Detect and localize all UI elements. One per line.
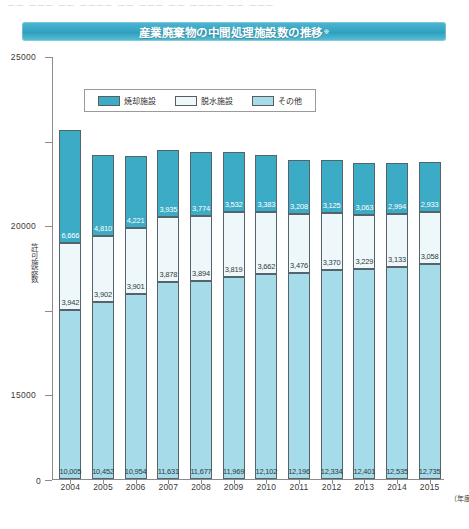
bar-segment-other: 12,102 xyxy=(255,274,277,479)
bar-segment-dehydration: 3,819 xyxy=(223,212,245,277)
page-title: 産業廃棄物の中間処理施設数の推移 xyxy=(139,24,323,40)
bar-segment-other: 10,954 xyxy=(125,294,147,479)
legend-swatch-other xyxy=(252,96,274,106)
x-axis-tick-label: 2005 xyxy=(93,482,113,492)
bar-value-label: 3,819 xyxy=(225,265,243,276)
bar-value-label: 2,994 xyxy=(388,202,406,213)
legend-label-dehydration: 脱水施設 xyxy=(201,95,233,106)
bar-segment-dehydration: 3,370 xyxy=(321,213,343,270)
x-axis-tick-label: 2007 xyxy=(158,482,178,492)
bar-column: 11,6313,8783,935 xyxy=(157,150,179,479)
bar-value-label: 4,810 xyxy=(94,224,112,235)
bar-segment-incineration: 2,994 xyxy=(386,163,408,214)
bar-value-label: 10,954 xyxy=(125,467,147,478)
bar-value-label: 3,935 xyxy=(159,205,177,216)
bar-segment-incineration: 3,063 xyxy=(353,163,375,215)
bar-column: 12,7353,0582,933 xyxy=(419,162,441,479)
bar-value-label: 3,058 xyxy=(421,252,439,263)
legend-swatch-incineration xyxy=(98,96,120,106)
bar-value-label: 3,125 xyxy=(323,201,341,212)
legend-item-other: その他 xyxy=(252,95,302,106)
bar-value-label: 3,942 xyxy=(61,298,79,309)
x-axis-tick-label: 2013 xyxy=(354,482,374,492)
bar-value-label: 3,901 xyxy=(127,282,145,293)
bar-segment-other: 11,677 xyxy=(190,281,212,479)
bar-segment-dehydration: 3,902 xyxy=(92,236,114,302)
bar-value-label: 3,370 xyxy=(323,258,341,269)
bar-segment-other: 12,401 xyxy=(353,269,375,479)
bar-value-label: 6,666 xyxy=(61,231,79,242)
bar-segment-dehydration: 3,058 xyxy=(419,212,441,264)
x-axis-tick-label: 2010 xyxy=(256,482,276,492)
bar-segment-incineration: 3,208 xyxy=(288,160,310,214)
bar-segment-dehydration: 3,894 xyxy=(190,216,212,282)
bar-value-label: 3,476 xyxy=(290,261,308,272)
bar-column: 10,0053,9426,666 xyxy=(59,130,81,479)
bar-value-label: 12,334 xyxy=(321,467,343,478)
x-axis-tick-label: 2012 xyxy=(322,482,342,492)
bar-segment-other: 10,452 xyxy=(92,302,114,479)
bar-segment-incineration: 2,933 xyxy=(419,162,441,212)
bar-value-label: 3,133 xyxy=(388,255,406,266)
x-axis-unit-label: （年度） xyxy=(450,493,469,503)
y-axis-tick: 25000 xyxy=(45,57,52,58)
x-axis-tick-label: 2014 xyxy=(387,482,407,492)
bar-value-label: 3,894 xyxy=(192,269,210,280)
bar-segment-other: 12,735 xyxy=(419,264,441,479)
bar-column: 12,3343,3703,125 xyxy=(321,160,343,479)
bar-segment-incineration: 3,532 xyxy=(223,152,245,212)
bar-segment-dehydration: 3,662 xyxy=(255,212,277,274)
bar-value-label: 11,631 xyxy=(158,467,179,478)
bar-value-label: 12,401 xyxy=(353,467,375,478)
bar-segment-dehydration: 3,476 xyxy=(288,214,310,273)
y-axis-tick: 15000 xyxy=(45,226,52,227)
y-axis-tick: 20000 xyxy=(45,142,52,143)
x-axis-tick-label: 2008 xyxy=(191,482,211,492)
bar-value-label: 3,229 xyxy=(355,257,373,268)
bar-segment-other: 11,631 xyxy=(157,282,179,479)
bar-value-label: 12,735 xyxy=(419,467,441,478)
bar-column: 12,4013,2293,063 xyxy=(353,163,375,479)
bar-segment-incineration: 3,125 xyxy=(321,160,343,213)
x-axis-tick-label: 2011 xyxy=(289,482,308,492)
bar-segment-other: 12,334 xyxy=(321,270,343,479)
legend-item-dehydration: 脱水施設 xyxy=(175,95,233,106)
bar-segment-other: 12,535 xyxy=(386,267,408,479)
bar-segment-dehydration: 3,942 xyxy=(59,243,81,310)
bar-segment-other: 11,969 xyxy=(223,277,245,480)
bar-segment-dehydration: 3,229 xyxy=(353,215,375,270)
y-axis-title: 許可施設数 xyxy=(26,243,38,283)
title-footnote-marker: ※ xyxy=(324,28,330,36)
x-axis-tick-label: 2004 xyxy=(60,482,80,492)
x-axis-tick-label: 2015 xyxy=(420,482,440,492)
bar-value-label: 2,933 xyxy=(421,200,439,211)
chart-plot-area: 0500010000150002000025000 10,0053,9426,6… xyxy=(52,57,444,480)
bar-value-label: 12,102 xyxy=(255,467,277,478)
legend-label-incineration: 焼却施設 xyxy=(124,95,156,106)
bar-segment-incineration: 3,383 xyxy=(255,155,277,212)
bar-value-label: 3,208 xyxy=(290,202,308,213)
y-axis-tick-label: 25000 xyxy=(11,52,36,62)
y-axis-tick-label: 15000 xyxy=(11,390,36,400)
bar-column: 11,9693,8193,532 xyxy=(223,152,245,479)
bar-value-label: 12,196 xyxy=(288,467,310,478)
bar-value-label: 3,662 xyxy=(257,262,275,273)
bar-value-label: 3,878 xyxy=(159,270,177,281)
bar-value-label: 11,677 xyxy=(190,467,211,478)
legend-swatch-dehydration xyxy=(175,96,197,106)
bar-value-label: 10,005 xyxy=(59,467,81,478)
bar-value-label: 3,383 xyxy=(257,200,275,211)
bar-value-label: 11,969 xyxy=(223,467,244,478)
legend-item-incineration: 焼却施設 xyxy=(98,95,156,106)
bar-value-label: 3,063 xyxy=(355,203,373,214)
bar-column: 10,9543,9014,221 xyxy=(125,156,147,479)
bar-column: 12,1963,4763,208 xyxy=(288,160,310,479)
bar-value-label: 3,902 xyxy=(94,290,112,301)
bar-segment-incineration: 4,221 xyxy=(125,156,147,227)
bar-segment-incineration: 6,666 xyxy=(59,130,81,243)
y-axis-tick: 0 xyxy=(45,480,52,481)
bar-column: 12,1023,6623,383 xyxy=(255,155,277,479)
bar-column: 11,6773,8943,774 xyxy=(190,152,212,479)
bar-segment-other: 12,196 xyxy=(288,273,310,479)
scan-artifact-text: ── ─── ── ──── ── ─── ── ──── ── ─── xyxy=(8,0,438,12)
